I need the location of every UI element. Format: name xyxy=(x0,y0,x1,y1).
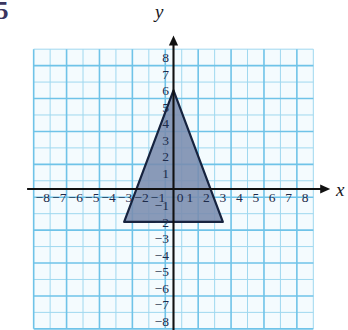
tick-label-y--7: −7 xyxy=(155,297,170,312)
tick-label-x--3: −3 xyxy=(118,190,133,205)
tick-label-y-3: 3 xyxy=(162,133,169,148)
tick-label-y--6: −6 xyxy=(155,281,170,296)
tick-label-y--3: −3 xyxy=(155,231,170,246)
tick-label-y--4: −4 xyxy=(155,248,170,263)
coordinate-plane: −8−7−6−5−4−3−2−1012345678−8−7−6−5−4−3−2−… xyxy=(0,0,348,330)
tick-label-x-5: 5 xyxy=(252,190,259,205)
tick-label-y-7: 7 xyxy=(162,67,169,82)
tick-label-y-8: 8 xyxy=(162,50,169,65)
y-axis-label: y xyxy=(155,2,163,21)
tick-label-y-4: 4 xyxy=(162,116,169,131)
y-axis-arrowhead xyxy=(169,36,178,46)
tick-label-y-5: 5 xyxy=(162,100,169,115)
tick-label-y--1: −1 xyxy=(155,198,169,213)
tick-label-y-2: 2 xyxy=(162,149,169,164)
x-axis-arrowhead xyxy=(320,184,330,193)
tick-label-x--7: −7 xyxy=(52,190,67,205)
tick-label-x-4: 4 xyxy=(236,190,243,205)
tick-label-y--8: −8 xyxy=(155,314,170,329)
tick-label-x--6: −6 xyxy=(69,190,84,205)
tick-label-x-6: 6 xyxy=(269,190,276,205)
tick-label-x-3: 3 xyxy=(219,190,226,205)
tick-label-y-6: 6 xyxy=(162,83,169,98)
tick-label-x--2: −2 xyxy=(134,190,148,205)
tick-label-x-7: 7 xyxy=(285,190,292,205)
tick-label-x--5: −5 xyxy=(85,190,100,205)
tick-label-x--4: −4 xyxy=(102,190,117,205)
tick-label-x--8: −8 xyxy=(36,190,51,205)
problem-number: 5 xyxy=(0,0,9,23)
tick-label-origin: 0 xyxy=(177,190,184,205)
tick-label-x-1: 1 xyxy=(187,190,194,205)
tick-label-y--5: −5 xyxy=(155,264,170,279)
tick-label-y--2: −2 xyxy=(155,215,169,230)
tick-label-x-8: 8 xyxy=(302,190,309,205)
tick-label-x-2: 2 xyxy=(203,190,210,205)
x-axis-label: x xyxy=(336,180,344,199)
tick-label-y-1: 1 xyxy=(162,166,169,181)
coordinate-grid-figure: 5 y x −8−7−6−5−4−3−2−1012345678−8−7−6−5−… xyxy=(0,0,348,330)
